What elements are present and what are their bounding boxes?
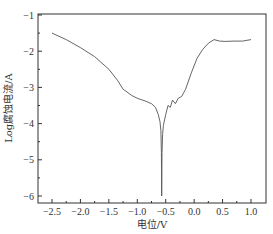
plot-frame: [38, 14, 266, 203]
x-tick-label: 0.0: [188, 206, 201, 217]
x-tick-label: −1.0: [128, 206, 146, 217]
y-tick-label: −3: [23, 82, 34, 93]
y-axis: −1−2−3−4−5−6: [23, 10, 42, 202]
y-tick-label: −6: [23, 191, 34, 202]
y-tick-label: −5: [23, 154, 34, 165]
x-tick-label: 0.5: [216, 206, 229, 217]
x-tick-label: −1.5: [100, 206, 118, 217]
plot-area-border: [38, 14, 266, 203]
x-axis: −2.5−2.0−1.5−1.0−0.50.00.51.0: [43, 199, 257, 217]
x-tick-label: −0.5: [157, 206, 175, 217]
y-tick-label: −1: [23, 10, 34, 21]
y-axis-label: Log腐蚀电流/A: [2, 72, 14, 142]
y-tick-label: −4: [23, 118, 34, 129]
x-tick-label: −2.0: [71, 206, 89, 217]
y-tick-label: −2: [23, 46, 34, 57]
polarization-chart: −1−2−3−4−5−6 −2.5−2.0−1.5−1.0−0.50.00.51…: [0, 0, 273, 234]
data-line: [52, 33, 251, 196]
x-tick-label: −2.5: [43, 206, 61, 217]
x-axis-label: 电位/V: [137, 218, 168, 230]
x-tick-label: 1.0: [245, 206, 258, 217]
